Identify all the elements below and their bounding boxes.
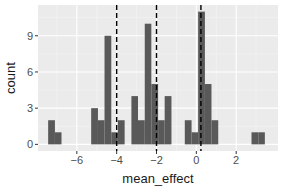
y-tick-label: 0 <box>27 138 33 150</box>
histogram-bar <box>91 108 98 144</box>
histogram-bar <box>192 132 199 144</box>
histogram-bar <box>138 120 145 144</box>
histogram-bar <box>131 96 138 144</box>
histogram-bar <box>48 120 55 144</box>
x-axis-title: mean_effect <box>122 171 194 186</box>
histogram-bar <box>105 36 112 145</box>
histogram-bar <box>98 120 105 144</box>
x-axis: −6−4−202 <box>71 151 240 166</box>
histogram-bar <box>185 120 192 144</box>
x-tick-label: −2 <box>150 154 163 166</box>
histogram-bar <box>118 120 125 144</box>
histogram-bar <box>55 132 62 144</box>
histogram-bar <box>258 132 265 144</box>
x-tick-label: 2 <box>233 154 239 166</box>
x-tick-label: 0 <box>193 154 199 166</box>
histogram-bar <box>165 96 172 144</box>
y-axis-title: count <box>3 62 18 94</box>
y-axis: 0369 <box>27 30 38 151</box>
y-tick-label: 6 <box>27 66 33 78</box>
x-tick-label: −6 <box>71 154 84 166</box>
y-tick-label: 3 <box>27 102 33 114</box>
y-tick-label: 9 <box>27 30 33 42</box>
histogram-bar <box>205 84 212 144</box>
histogram-chart: −6−4−202 0369 mean_effect count <box>0 0 285 196</box>
x-tick-label: −4 <box>110 154 123 166</box>
histogram-bar <box>252 132 259 144</box>
histogram-bar <box>145 24 152 145</box>
histogram-bar <box>211 120 218 144</box>
histogram-bar <box>158 120 165 144</box>
